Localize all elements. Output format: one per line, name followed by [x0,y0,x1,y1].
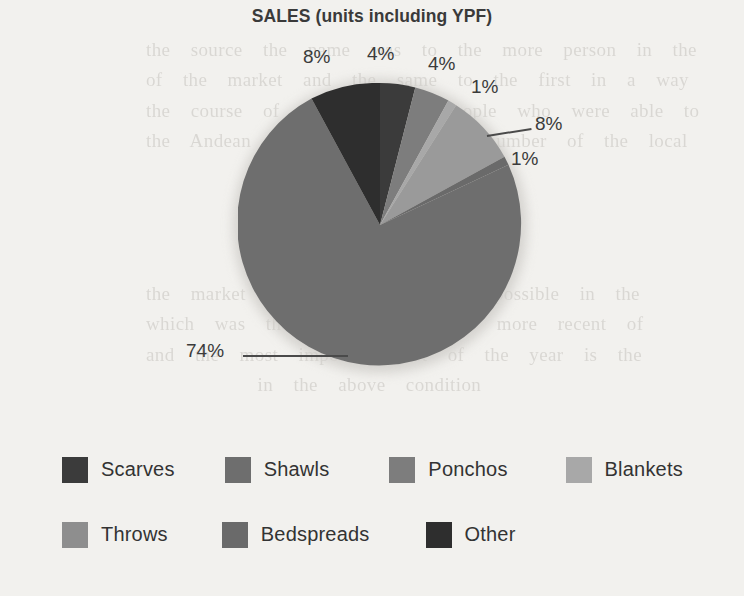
legend-label-shawls: Shawls [264,458,330,481]
legend-item-bedspreads[interactable]: Bedspreads [222,522,370,548]
chart-legend: Scarves Shawls Ponchos Blankets Throws [0,437,744,567]
legend-swatch-bedspreads-icon [222,522,248,548]
legend-swatch-blankets-icon [566,457,592,483]
pie-graphic [238,83,522,367]
data-label-other: 8% [303,46,330,68]
legend-label-ponchos: Ponchos [428,458,507,481]
legend-swatch-ponchos-icon [389,457,415,483]
data-label-shawls: 74% [186,340,224,362]
pie-chart: SALES (units including YPF) 8% 4% 4% 1% … [0,0,744,596]
leader-line-shawls [243,355,348,357]
legend-label-throws: Throws [101,523,168,546]
legend-row-1: Scarves Shawls Ponchos Blankets [0,437,744,502]
legend-swatch-other-icon [426,522,452,548]
legend-label-blankets: Blankets [605,458,683,481]
legend-item-other[interactable]: Other [426,522,516,548]
legend-swatch-throws-icon [62,522,88,548]
data-label-throws: 8% [535,113,562,135]
legend-label-other: Other [465,523,516,546]
legend-swatch-shawls-icon [225,457,251,483]
data-label-ponchos: 4% [428,53,455,75]
data-label-scarves: 4% [367,43,394,65]
legend-item-scarves[interactable]: Scarves [62,457,175,483]
pie-slices [238,83,522,367]
legend-row-2: Throws Bedspreads Other [0,502,744,567]
legend-item-ponchos[interactable]: Ponchos [389,457,507,483]
legend-swatch-scarves-icon [62,457,88,483]
data-label-bedspreads: 1% [511,148,538,170]
legend-label-bedspreads: Bedspreads [261,523,370,546]
legend-item-shawls[interactable]: Shawls [225,457,330,483]
legend-item-blankets[interactable]: Blankets [566,457,683,483]
data-label-blankets: 1% [471,76,498,98]
legend-label-scarves: Scarves [101,458,175,481]
chart-title: SALES (units including YPF) [0,6,744,27]
legend-item-throws[interactable]: Throws [62,522,168,548]
